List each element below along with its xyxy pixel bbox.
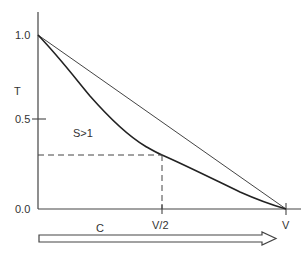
y-tick-label-1: 1.0 (15, 29, 30, 41)
x-tick-label-v: V (282, 219, 290, 231)
region-label: S>1 (73, 127, 93, 139)
straight-line (38, 35, 286, 209)
y-tick-label-0.5: 0.5 (15, 113, 30, 125)
y-tick-label-0: 0.0 (15, 203, 30, 215)
y-axis-label: T (14, 85, 21, 97)
x-tick-label-v-half: V/2 (152, 219, 169, 231)
diagram-canvas: 1.0 0.5 0.0 T S>1 V/2 V C (0, 0, 308, 258)
arrow-label: C (96, 222, 104, 234)
direction-arrow (39, 232, 276, 245)
